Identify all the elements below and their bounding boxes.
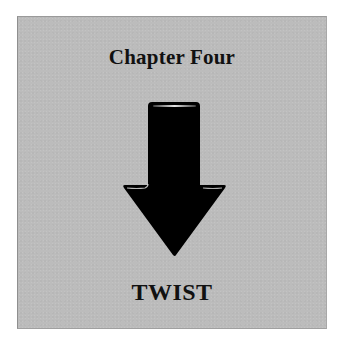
section-title: TWIST bbox=[18, 279, 326, 306]
chapter-title: Chapter Four bbox=[18, 45, 326, 70]
arrow-down-icon bbox=[123, 102, 228, 258]
chapter-card: Chapter Four TWIST bbox=[17, 16, 327, 329]
